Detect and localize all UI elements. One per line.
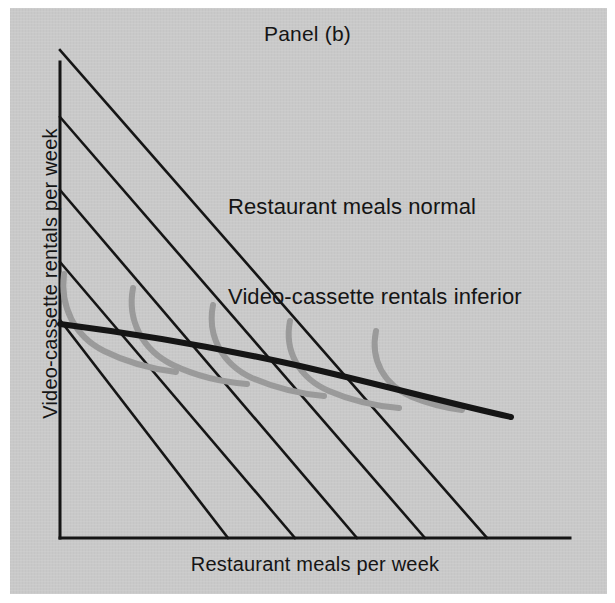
- annotation-line-1: Restaurant meals normal: [228, 192, 522, 222]
- x-axis-label: Restaurant meals per week: [60, 553, 570, 576]
- figure-root: Panel (b) Restaurant meals normal Video-…: [0, 0, 615, 603]
- annotation-block: Restaurant meals normal Video-cassette r…: [228, 132, 522, 372]
- annotation-line-2: Video-cassette rentals inferior: [228, 282, 522, 312]
- panel-title: Panel (b): [0, 22, 615, 46]
- y-axis-label: Video-cassette rentals per week: [39, 94, 62, 454]
